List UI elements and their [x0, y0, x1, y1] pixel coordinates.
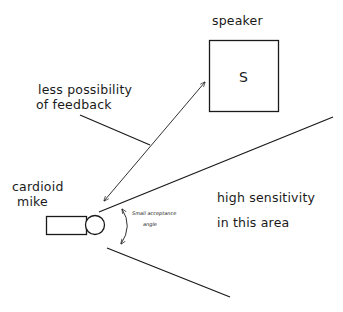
- microphone-head: [86, 216, 105, 235]
- speaker-mike-double-arrow: [104, 82, 205, 201]
- mike-label-line1: cardioid: [12, 181, 64, 194]
- speaker-symbol: S: [239, 70, 248, 84]
- pickup-lower-boundary: [107, 248, 230, 297]
- acceptance-angle-arc: [121, 209, 127, 244]
- angle-label-line1: Small acceptance: [132, 211, 176, 216]
- microphone-body: [47, 217, 87, 235]
- feedback-leader-line: [80, 115, 150, 145]
- diagram-shapes: [0, 0, 343, 312]
- sensitivity-label-line2: in this area: [217, 217, 289, 230]
- mike-label-line2: mike: [17, 196, 48, 209]
- speaker-label: speaker: [212, 15, 263, 28]
- feedback-label-line2: of feedback: [36, 99, 112, 112]
- diagram-canvas: speaker S less possibility of feedback c…: [0, 0, 343, 312]
- angle-label-line2: angle: [143, 222, 157, 227]
- feedback-label-line1: less possibility: [38, 84, 132, 97]
- sensitivity-label-line1: high sensitivity: [217, 192, 315, 205]
